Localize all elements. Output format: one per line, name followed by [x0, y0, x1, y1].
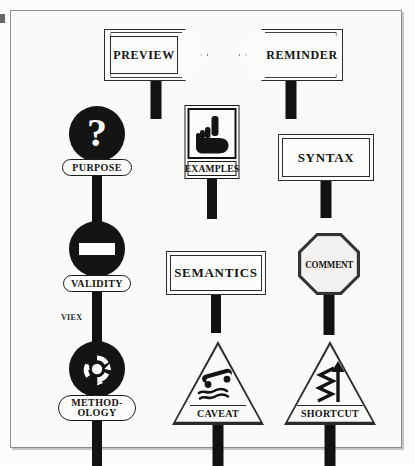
sign-post [213, 424, 224, 466]
sign-label-syntax: SYNTAX [298, 150, 355, 166]
winding-road-arrow-icon: SHORTCUT [284, 341, 376, 425]
syntax-plate: SYNTAX [278, 134, 374, 181]
sign-post [211, 295, 221, 333]
preview-plate: PREVIEW [110, 36, 178, 74]
reminder-plate: REMINDER [267, 36, 337, 74]
no-entry-bar [79, 243, 116, 255]
sign-post [92, 414, 102, 466]
caption-divider [190, 405, 246, 406]
sign-post [207, 179, 217, 219]
zigzag-arrow-glyph [310, 359, 350, 407]
stop-sign-octagon-icon: COMMENT [298, 233, 360, 295]
pointing-hand-icon [188, 108, 237, 159]
question-glyph: ? [87, 113, 107, 153]
caption-validity: VALIDITY [63, 275, 131, 292]
stray-scan-label: VIEX [61, 313, 82, 322]
sign-label-examples: EXAMPLES [185, 164, 239, 174]
skidding-car-glyph [196, 367, 240, 405]
sign-post [92, 172, 102, 228]
arrow-right-icon: PREVIEW [104, 29, 208, 81]
sign-label-purpose: PURPOSE [72, 163, 121, 173]
caption-purpose: PURPOSE [62, 159, 132, 176]
semantics-plate: SEMANTICS [166, 251, 266, 295]
sign-post [324, 291, 335, 335]
sign-post [151, 79, 162, 119]
sign-label-shortcut: SHORTCUT [301, 408, 359, 419]
sign-label-validity: VALIDITY [71, 279, 123, 289]
slippery-road-icon: CAVEAT [172, 341, 264, 425]
no-entry-icon [69, 221, 125, 277]
caption-examples: EXAMPLES [188, 161, 237, 176]
sign-post [92, 287, 102, 343]
scan-artifact-speck [0, 14, 5, 23]
sign-post [286, 79, 297, 119]
caption-divider [297, 405, 363, 406]
sign-label-reminder: REMINDER [266, 48, 337, 63]
circular-arrows-roundabout-icon [69, 341, 125, 397]
sign-label-comment: COMMENT [305, 258, 353, 270]
arrow-left-icon: REMINDER [239, 29, 343, 81]
sign-label-preview: PREVIEW [113, 48, 175, 63]
sign-post [321, 181, 332, 218]
sign-label-methodology-line2: OLOGY [77, 408, 116, 418]
question-mark-icon: ? [69, 106, 125, 162]
figure-frame: PREVIEW REMINDER ? PURPOSE [10, 10, 402, 448]
caption-methodology: METHOD- OLOGY [58, 395, 136, 421]
examples-plate: EXAMPLES [185, 105, 240, 179]
sign-label-semantics: SEMANTICS [174, 265, 258, 281]
sign-label-caveat: CAVEAT [197, 408, 239, 419]
sign-post [325, 424, 336, 466]
